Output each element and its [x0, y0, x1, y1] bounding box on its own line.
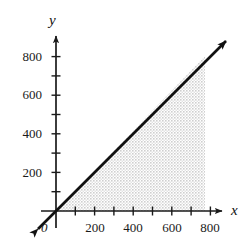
y-tick-label-600: 600: [8, 88, 42, 101]
y-axis-label: y: [49, 13, 56, 28]
x-axis-label: x: [231, 203, 238, 218]
x-tick-label-400: 400: [115, 221, 151, 234]
chart-canvas: [0, 0, 249, 245]
chart-figure: 800 600 400 200 200 400 600 800 0 y x: [0, 0, 249, 245]
x-tick-label-200: 200: [77, 221, 113, 234]
x-tick-label-600: 600: [154, 221, 190, 234]
y-tick-label-800: 800: [8, 50, 42, 63]
x-tick-label-800: 800: [192, 221, 228, 234]
origin-label: 0: [41, 221, 48, 234]
y-tick-label-200: 200: [8, 166, 42, 179]
y-tick-label-400: 400: [8, 127, 42, 140]
